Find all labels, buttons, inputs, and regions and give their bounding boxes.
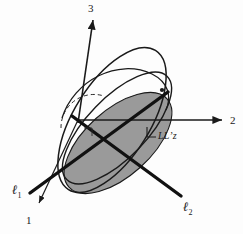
line-l2-subscript: 2 <box>189 208 193 217</box>
point-marker <box>160 88 164 92</box>
axis-2-label: 2 <box>230 115 236 126</box>
right-angle-annotation-label: LL’z <box>158 131 177 141</box>
line-l1-subscript: 1 <box>18 191 22 200</box>
figure-canvas <box>0 0 243 234</box>
line-l1-label: ℓ1 <box>12 183 22 200</box>
axis-3-label: 3 <box>88 3 94 14</box>
axis-3-line <box>78 20 93 123</box>
geometry-figure: 3 2 1 ℓ1 ℓ2 LL’z <box>0 0 243 234</box>
axis-1-label: 1 <box>26 215 32 226</box>
line-l2-label: ℓ2 <box>183 200 193 217</box>
shaded-plane-disk <box>47 74 189 211</box>
